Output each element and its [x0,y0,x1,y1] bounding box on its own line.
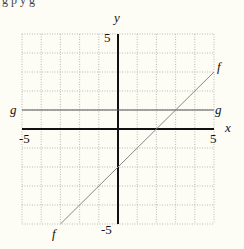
x-max-label: 5 [210,131,217,147]
y-max-label: 5 [104,30,111,46]
graph [0,0,244,249]
g-label-right: g [215,102,222,118]
g-label-left: g [10,102,17,118]
y-axis-label: y [114,10,120,26]
y-min-label: -5 [101,222,112,238]
x-min-label: -5 [19,131,30,147]
x-axis-label: x [225,120,231,136]
f-label-bottom: f [52,226,56,242]
f-label-top: f [217,59,221,75]
